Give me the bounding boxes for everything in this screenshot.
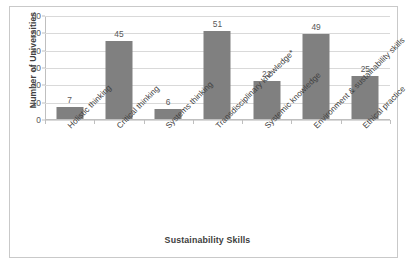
x-tick-mark	[390, 120, 391, 124]
y-axis-title-container: Number of Universities	[14, 38, 28, 130]
bar-value-label: 49	[311, 22, 320, 32]
x-tick-mark	[341, 120, 342, 124]
x-tick-mark	[45, 120, 46, 124]
x-tick-mark	[94, 120, 95, 124]
x-tick-mark	[193, 120, 194, 124]
x-tick-mark	[242, 120, 243, 124]
y-tick-label: 0	[36, 115, 41, 125]
bar-value-label: 6	[166, 97, 171, 107]
bar-value-label: 51	[213, 19, 222, 29]
y-tick-label: 10	[32, 98, 41, 108]
bar-value-label: 45	[114, 29, 123, 39]
y-tick-label: 40	[32, 46, 41, 56]
x-tick-mark	[144, 120, 145, 124]
y-tick-label: 50	[32, 28, 41, 38]
x-axis-title: Sustainability Skills	[0, 235, 415, 245]
bar-value-label: 7	[67, 95, 72, 105]
bar-chart-figure: Number of Universities 0102030405060 745…	[0, 0, 415, 271]
y-tick-label: 20	[32, 80, 41, 90]
y-tick-label: 60	[32, 11, 41, 21]
y-tick-label: 30	[32, 63, 41, 73]
x-tick-mark	[291, 120, 292, 124]
bar[interactable]	[105, 41, 132, 119]
bar[interactable]	[204, 31, 231, 119]
